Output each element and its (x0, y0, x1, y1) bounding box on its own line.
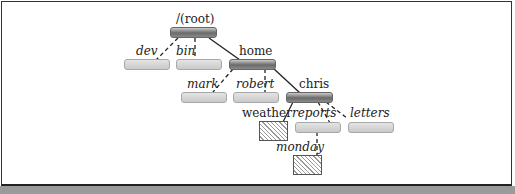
node-label-monday: monday (276, 141, 324, 153)
edge-home-chris (273, 68, 300, 93)
node-label-mark: mark (187, 78, 219, 90)
node-root[interactable] (170, 27, 217, 38)
node-label-reports: reports (292, 107, 336, 119)
node-home[interactable] (229, 59, 276, 70)
node-label-chris: chris (299, 78, 329, 90)
node-chris[interactable] (286, 92, 333, 103)
file-monday[interactable] (293, 155, 322, 175)
node-label-weather: weather (242, 107, 292, 119)
node-mark[interactable] (181, 92, 227, 103)
node-label-dev: dev (136, 45, 158, 57)
file-weather[interactable] (259, 121, 288, 141)
node-label-root: /(root) (176, 13, 214, 25)
node-label-letters: letters (350, 107, 390, 119)
node-label-robert: robert (236, 78, 274, 90)
node-reports[interactable] (295, 122, 341, 133)
node-label-bin: bin (176, 45, 195, 57)
node-letters[interactable] (348, 122, 394, 133)
node-dev[interactable] (124, 59, 170, 70)
edge-root-home (209, 38, 240, 60)
edge-root-dev (156, 38, 178, 60)
node-robert[interactable] (233, 92, 279, 103)
node-bin[interactable] (176, 59, 222, 70)
node-label-home: home (239, 45, 272, 57)
